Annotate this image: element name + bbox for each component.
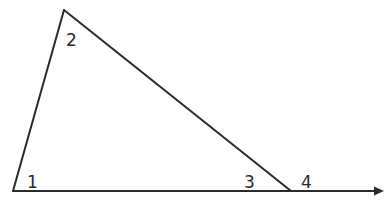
angle-label-4: 4 (301, 172, 312, 192)
triangle-side-right (64, 10, 291, 191)
arrowhead-icon (374, 187, 384, 196)
angle-label-2: 2 (66, 30, 77, 50)
triangle-diagram: 1 2 3 4 (0, 0, 390, 211)
angle-label-1: 1 (27, 172, 38, 192)
angle-label-3: 3 (244, 172, 255, 192)
triangle-side-left (13, 10, 64, 191)
